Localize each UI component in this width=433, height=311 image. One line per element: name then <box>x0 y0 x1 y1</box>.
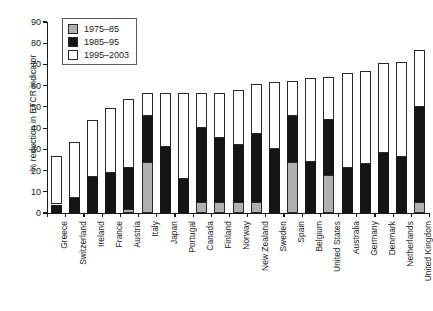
x-tick <box>229 213 230 217</box>
bar-segment-1985-95 <box>123 168 134 208</box>
x-tick-label-australia: Australia <box>351 221 361 254</box>
bar-segment-1995-2003 <box>233 90 244 145</box>
etcr-reduction-bar-chart: % reduction in ETCR indicator 0102030405… <box>0 0 433 311</box>
bar-segment-1995-2003 <box>360 71 371 164</box>
bar-segment-1995-2003 <box>251 84 262 135</box>
legend-swatch-1985-95 <box>68 37 78 47</box>
bar-segment-1975-85 <box>414 202 425 213</box>
x-tick-label-france: France <box>114 221 124 247</box>
legend-swatch-1995-2003 <box>68 50 78 60</box>
x-tick-label-germany: Germany <box>369 221 379 256</box>
bar-segment-1985-95 <box>396 157 407 213</box>
y-tick-label: 70 <box>31 59 41 69</box>
x-tick <box>156 213 157 217</box>
bar-italy <box>142 22 153 213</box>
bar-new-zealand <box>251 22 262 213</box>
y-tick-label: 20 <box>31 166 41 176</box>
bar-segment-1985-95 <box>360 164 371 213</box>
bar-segment-1995-2003 <box>178 93 189 179</box>
x-tick <box>211 213 212 217</box>
x-tick-label-netherlands: Netherlands <box>405 221 415 267</box>
bar-canada <box>196 22 207 213</box>
x-tick-label-sweden: Sweden <box>278 221 288 252</box>
bar-belgium <box>305 22 316 213</box>
bar-germany <box>360 22 371 213</box>
bar-segment-1995-2003 <box>305 78 316 162</box>
legend-item: 1995–2003 <box>68 48 129 61</box>
x-tick-label-new-zealand: New Zealand <box>260 221 270 271</box>
bar-segment-1985-95 <box>287 116 298 162</box>
x-tick-label-united-kingdom: United Kingdom <box>423 221 433 281</box>
x-tick-label-finland: Finland <box>223 221 233 249</box>
bar-segment-1995-2003 <box>105 108 116 173</box>
bar-segment-1995-2003 <box>142 93 153 116</box>
bar-segment-1995-2003 <box>214 93 225 138</box>
x-tick-label-belgium: Belgium <box>314 221 324 252</box>
bar-sweden <box>269 22 280 213</box>
legend-label-1975-85: 1975–85 <box>84 24 119 34</box>
y-tick-label: 80 <box>31 38 41 48</box>
bar-segment-1975-85 <box>233 202 244 213</box>
bar-segment-1995-2003 <box>123 99 134 168</box>
bar-segment-1985-95 <box>51 205 62 213</box>
bar-spain <box>287 22 298 213</box>
bar-portugal <box>178 22 189 213</box>
bar-netherlands <box>396 22 407 213</box>
bar-segment-1995-2003 <box>287 81 298 116</box>
bar-segment-1995-2003 <box>87 120 98 177</box>
bar-united-kingdom <box>414 22 425 213</box>
x-tick <box>138 213 139 217</box>
x-tick <box>302 213 303 217</box>
bar-finland <box>214 22 225 213</box>
bar-segment-1995-2003 <box>323 77 334 119</box>
x-tick-label-portugal: Portugal <box>187 221 197 253</box>
x-tick <box>247 213 248 217</box>
x-tick <box>47 213 48 217</box>
x-tick-label-canada: Canada <box>205 221 215 251</box>
x-tick <box>193 213 194 217</box>
bar-united-states <box>323 22 334 213</box>
x-tick <box>356 213 357 217</box>
bar-segment-1995-2003 <box>378 63 389 152</box>
bar-segment-1975-85 <box>323 175 334 213</box>
x-tick <box>102 213 103 217</box>
x-tick-label-austria: Austria <box>132 221 142 247</box>
y-tick-label: 50 <box>31 102 41 112</box>
x-tick <box>265 213 266 217</box>
y-tick-label: 90 <box>31 17 41 27</box>
x-tick-label-ireland: Ireland <box>96 221 106 247</box>
legend-item: 1985–95 <box>68 35 129 48</box>
bar-segment-1985-95 <box>87 177 98 213</box>
bar-greece <box>51 22 62 213</box>
x-tick <box>174 213 175 217</box>
bar-segment-1985-95 <box>196 128 207 202</box>
bar-segment-1985-95 <box>323 120 334 175</box>
bar-segment-1975-85 <box>214 202 225 213</box>
y-tick-label: 40 <box>31 123 41 133</box>
x-tick <box>320 213 321 217</box>
x-tick-label-switzerland: Switzerland <box>78 221 88 265</box>
x-axis-line <box>47 213 429 214</box>
bar-segment-1985-95 <box>69 198 80 213</box>
legend-label-1985-95: 1985–95 <box>84 37 119 47</box>
x-tick-label-united-states: United States <box>332 221 342 272</box>
bar-segment-1985-95 <box>251 134 262 202</box>
bar-norway <box>233 22 244 213</box>
bar-segment-1975-85 <box>123 209 134 213</box>
bar-segment-1995-2003 <box>196 93 207 128</box>
legend-item: 1975–85 <box>68 22 129 35</box>
bar-segment-1975-85 <box>196 202 207 213</box>
bar-denmark <box>378 22 389 213</box>
x-tick <box>65 213 66 217</box>
bar-segment-1985-95 <box>214 138 225 203</box>
bar-segment-1985-95 <box>142 116 153 162</box>
y-tick-label: 10 <box>31 187 41 197</box>
x-tick <box>83 213 84 217</box>
bar-segment-1995-2003 <box>414 50 425 107</box>
x-tick-label-norway: Norway <box>241 221 251 250</box>
y-tick-label: 60 <box>31 81 41 91</box>
x-tick <box>411 213 412 217</box>
x-tick-label-spain: Spain <box>296 221 306 243</box>
legend-label-1995-2003: 1995–2003 <box>84 50 129 60</box>
bar-segment-1985-95 <box>305 162 316 213</box>
